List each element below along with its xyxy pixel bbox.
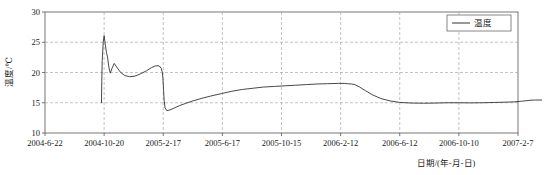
x-tick-label: 2005-10-15 — [262, 138, 302, 148]
y-tick-label: 30 — [32, 7, 41, 17]
y-tick-label: 10 — [32, 128, 41, 138]
x-tick-label: 2004-10-20 — [84, 138, 124, 148]
y-tick-label: 25 — [32, 37, 41, 47]
x-tick-label: 2006-6-12 — [382, 138, 417, 148]
x-tick-label: 2005-2-17 — [146, 138, 181, 148]
x-tick-label: 2006-10-10 — [439, 138, 479, 148]
x-tick-label: 2004-6-22 — [27, 138, 62, 148]
x-tick-label: 2005-6-17 — [205, 138, 240, 148]
legend-label-temperature: 温度 — [474, 18, 492, 28]
y-tick-label: 20 — [32, 68, 41, 78]
temperature-line-chart: 1015202530 2004-6-222004-10-202005-2-172… — [0, 0, 544, 175]
chart-figure: 1015202530 2004-6-222004-10-202005-2-172… — [0, 0, 544, 175]
x-tick-label: 2007-2-7 — [502, 138, 533, 148]
y-axis-title: 温度/℃ — [4, 57, 14, 87]
y-axis-ticks — [42, 12, 45, 133]
y-axis-tick-labels: 1015202530 — [32, 7, 41, 138]
y-tick-label: 15 — [32, 98, 41, 108]
x-axis-ticks — [45, 133, 518, 136]
x-axis-tick-labels: 2004-6-222004-10-202005-2-172005-6-17200… — [27, 138, 533, 148]
legend: 温度 — [447, 15, 511, 31]
x-tick-label: 2006-2-12 — [323, 138, 358, 148]
x-axis-title: 日期/(年-月-日) — [417, 158, 476, 168]
